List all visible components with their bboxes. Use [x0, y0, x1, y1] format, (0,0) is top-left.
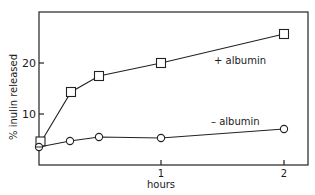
x-tick-label-2: 2: [281, 168, 287, 179]
x-tick-label-1: 1: [158, 168, 164, 179]
x-axis-title: hours: [147, 179, 175, 190]
series-plus-albumin-label: + albumin: [214, 55, 266, 66]
square-marker: [157, 59, 166, 68]
chart-figure: 10 20 1 2 hours % inulin released + albu…: [0, 0, 315, 195]
circle-marker: [157, 134, 164, 141]
y-tick-label-20: 20: [22, 57, 36, 70]
square-marker: [67, 88, 76, 97]
series-plus-albumin-markers: [36, 30, 289, 147]
series-minus-albumin-label: – albumin: [211, 116, 260, 127]
circle-marker: [66, 137, 73, 144]
square-marker: [280, 30, 289, 39]
y-tick-label-10: 10: [22, 108, 36, 121]
y-axis-title: % inulin released: [8, 54, 19, 140]
square-marker: [95, 72, 104, 81]
circle-marker: [280, 125, 287, 132]
series-minus-albumin-markers: [35, 125, 287, 150]
circle-marker: [95, 133, 102, 140]
plot-frame: [39, 12, 308, 165]
